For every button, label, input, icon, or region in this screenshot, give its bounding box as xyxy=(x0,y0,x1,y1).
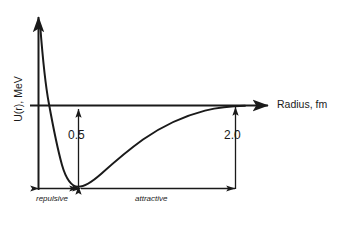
well-depth-value-label: 0.5 xyxy=(68,129,85,141)
attractive-region-label: attractive xyxy=(135,195,167,203)
y-axis-label: U(r), MeV xyxy=(10,68,26,130)
potential-energy-diagram: U(r), MeV Radius, fm 0.5 2.0 repulsive a… xyxy=(0,0,345,229)
x-axis-label: Radius, fm xyxy=(277,99,327,110)
y-axis-label-text: U(r), MeV xyxy=(13,76,24,122)
range-value-label: 2.0 xyxy=(224,129,241,141)
repulsive-region-label: repulsive xyxy=(36,195,68,203)
